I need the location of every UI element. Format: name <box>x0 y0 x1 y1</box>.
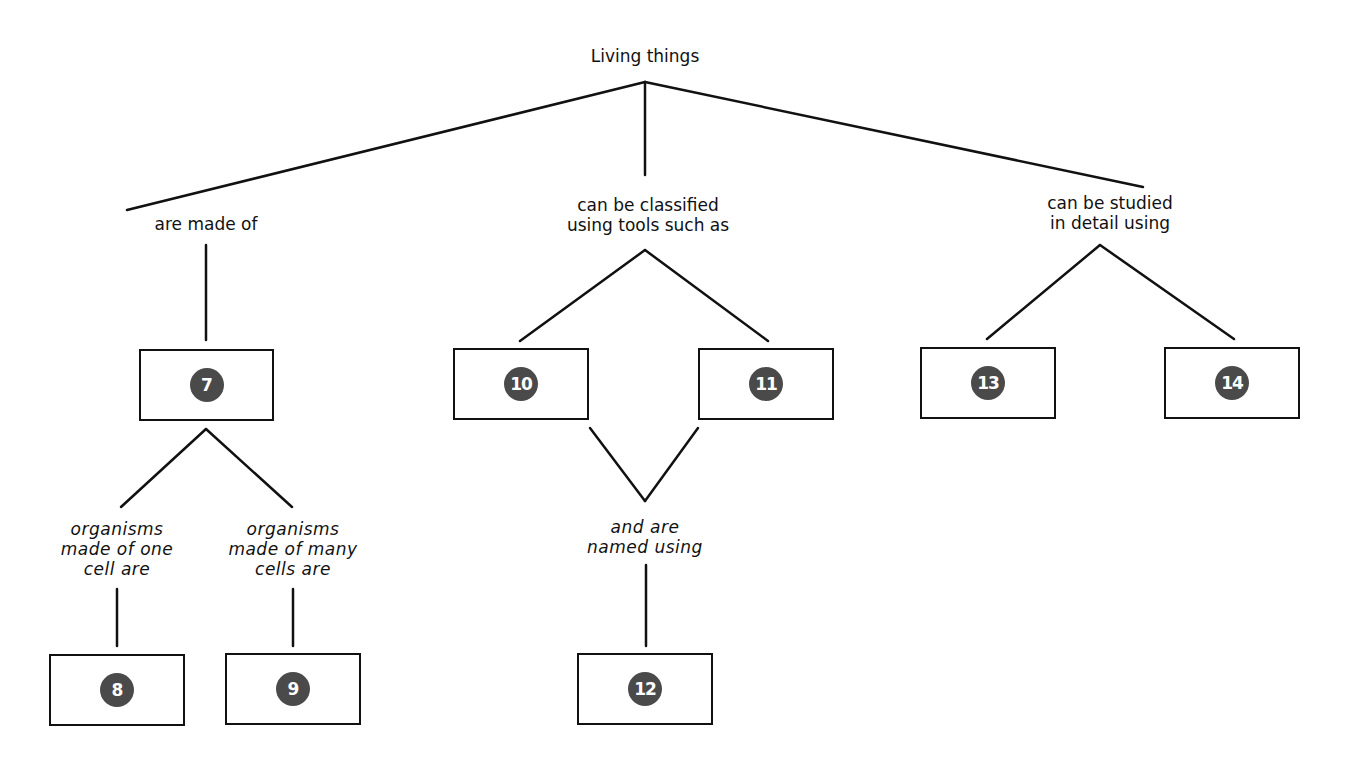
answer-box-11: 11 <box>698 348 834 420</box>
link-named-using: and are named using <box>587 517 703 557</box>
number-badge: 14 <box>1215 366 1249 400</box>
number-badge: 9 <box>276 672 310 706</box>
root-concept-living-things: Living things <box>591 46 700 66</box>
number-badge: 12 <box>628 672 662 706</box>
answer-box-14: 14 <box>1164 347 1300 419</box>
link-organisms-many-cells: organisms made of many cells are <box>228 519 357 579</box>
link-can-be-studied: can be studied in detail using <box>1047 193 1173 233</box>
number-badge: 8 <box>100 673 134 707</box>
link-can-be-classified: can be classified using tools such as <box>567 195 729 235</box>
answer-box-10: 10 <box>453 348 589 420</box>
link-are-made-of: are made of <box>155 214 258 234</box>
answer-box-9: 9 <box>225 653 361 725</box>
link-organisms-one-cell: organisms made of one cell are <box>61 519 174 579</box>
number-badge: 11 <box>749 367 783 401</box>
number-badge: 7 <box>190 368 224 402</box>
number-badge: 10 <box>504 367 538 401</box>
number-badge: 13 <box>971 366 1005 400</box>
answer-box-13: 13 <box>920 347 1056 419</box>
answer-box-7: 7 <box>139 349 274 421</box>
answer-box-8: 8 <box>49 654 185 726</box>
answer-box-12: 12 <box>577 653 713 725</box>
